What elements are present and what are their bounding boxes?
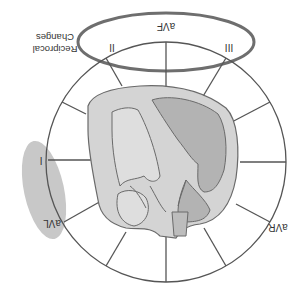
diagram-canvas: II aVF III I aVL aVR Reciprocal Changes: [0, 0, 304, 296]
lead-label-aVL: aVL: [43, 218, 61, 229]
lead-label-aVR: aVR: [268, 222, 287, 233]
lead-label-I: I: [40, 155, 43, 166]
lead-label-III: III: [225, 42, 233, 53]
lead-label-II: II: [109, 42, 115, 53]
lead-label-aVF: aVF: [157, 21, 175, 32]
annotation-line-1: Reciprocal: [33, 44, 78, 55]
heart: [88, 86, 238, 238]
lead-diagram: II aVF III I aVL aVR Reciprocal Changes: [0, 0, 304, 296]
annotation-line-2: Changes: [36, 32, 74, 43]
